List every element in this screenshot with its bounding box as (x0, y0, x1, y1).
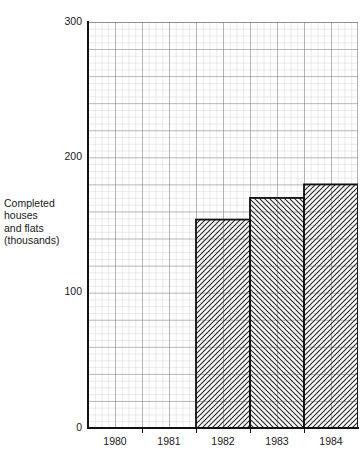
x-tick-label-1984: 1984 (301, 436, 361, 447)
x-tick-mark-2 (196, 428, 197, 433)
y-axis-title-line-3: and flats (4, 222, 82, 234)
x-tick-label-1983: 1983 (247, 436, 307, 447)
x-tick-label-1981: 1981 (139, 436, 199, 447)
y-axis-title: Completed houses and flats (thousands) (4, 197, 82, 247)
x-tick-mark-4 (304, 428, 305, 433)
y-tick-label-200: 200 (42, 151, 82, 162)
y-axis-line (87, 21, 89, 429)
x-tick-label-1982: 1982 (193, 436, 253, 447)
bar-1980 (196, 220, 250, 428)
bar-1981 (250, 198, 304, 428)
x-tick-label-1980: 1980 (85, 436, 145, 447)
y-axis-title-line-2: houses (4, 209, 82, 221)
x-axis-line (87, 427, 359, 429)
bar-series (88, 22, 358, 428)
y-axis-title-line-1: Completed (4, 197, 82, 209)
y-tick-label-0: 0 (42, 422, 82, 433)
y-tick-label-100: 100 (42, 286, 82, 297)
y-tick-label-300: 300 (42, 16, 82, 27)
y-axis-title-line-4: (thousands) (4, 234, 82, 246)
bar-1982 (304, 184, 358, 428)
bar-chart-figure: Completed houses and flats (thousands) 3… (0, 0, 364, 462)
x-tick-mark-3 (250, 428, 251, 433)
plot-area (88, 22, 358, 428)
x-tick-mark-1 (142, 428, 143, 433)
